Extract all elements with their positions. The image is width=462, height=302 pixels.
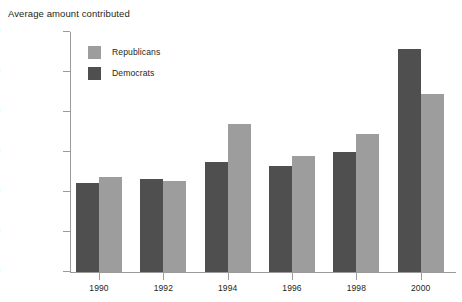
- x-axis-tick-mark: [356, 272, 357, 280]
- x-axis-tick-mark: [421, 272, 422, 280]
- legend-label-republicans: Republicans: [112, 47, 160, 57]
- bar-democrats-1996: [269, 166, 292, 272]
- y-axis-tick-mark: [63, 231, 70, 232]
- y-axis-line: [70, 32, 71, 273]
- x-axis-tick-label-1990: 1990: [69, 283, 129, 293]
- x-axis-tick-mark: [228, 272, 229, 280]
- y-axis-tick-mark: [63, 191, 70, 192]
- bar-democrats-1998: [333, 152, 356, 272]
- bar-republicans-2000: [421, 94, 444, 272]
- x-axis-tick-label-1992: 1992: [133, 283, 193, 293]
- legend-swatch-democrats: [88, 67, 101, 80]
- x-axis-tick-label-1994: 1994: [198, 283, 258, 293]
- legend-label-democrats: Democrats: [112, 68, 154, 78]
- bar-republicans-1990: [99, 177, 122, 272]
- x-axis-tick-label-1996: 1996: [262, 283, 322, 293]
- y-axis-tick-mark: [63, 271, 70, 272]
- x-axis-tick-mark: [292, 272, 293, 280]
- legend-swatch-republicans: [88, 46, 101, 59]
- bar-democrats-1992: [140, 179, 163, 272]
- bar-republicans-1996: [292, 156, 315, 272]
- bar-democrats-1994: [205, 162, 228, 272]
- bar-democrats-2000: [398, 49, 421, 272]
- bar-republicans-1998: [356, 134, 379, 272]
- bar-democrats-1990: [76, 183, 99, 272]
- x-axis-tick-label-1998: 1998: [326, 283, 386, 293]
- x-axis-tick-mark: [163, 272, 164, 280]
- x-axis-line: [70, 272, 456, 273]
- x-axis-tick-label-2000: 2000: [391, 283, 451, 293]
- bar-republicans-1994: [228, 124, 251, 272]
- y-axis-tick-mark: [63, 31, 70, 32]
- y-axis-tick-mark: [63, 151, 70, 152]
- y-axis-tick-mark: [63, 111, 70, 112]
- bar-chart: Average amount contributed 0$1,000,000$2…: [0, 0, 462, 302]
- y-axis-tick-mark: [63, 71, 70, 72]
- x-axis-tick-mark: [99, 272, 100, 280]
- bar-republicans-1992: [163, 181, 186, 272]
- chart-title: Average amount contributed: [8, 8, 130, 19]
